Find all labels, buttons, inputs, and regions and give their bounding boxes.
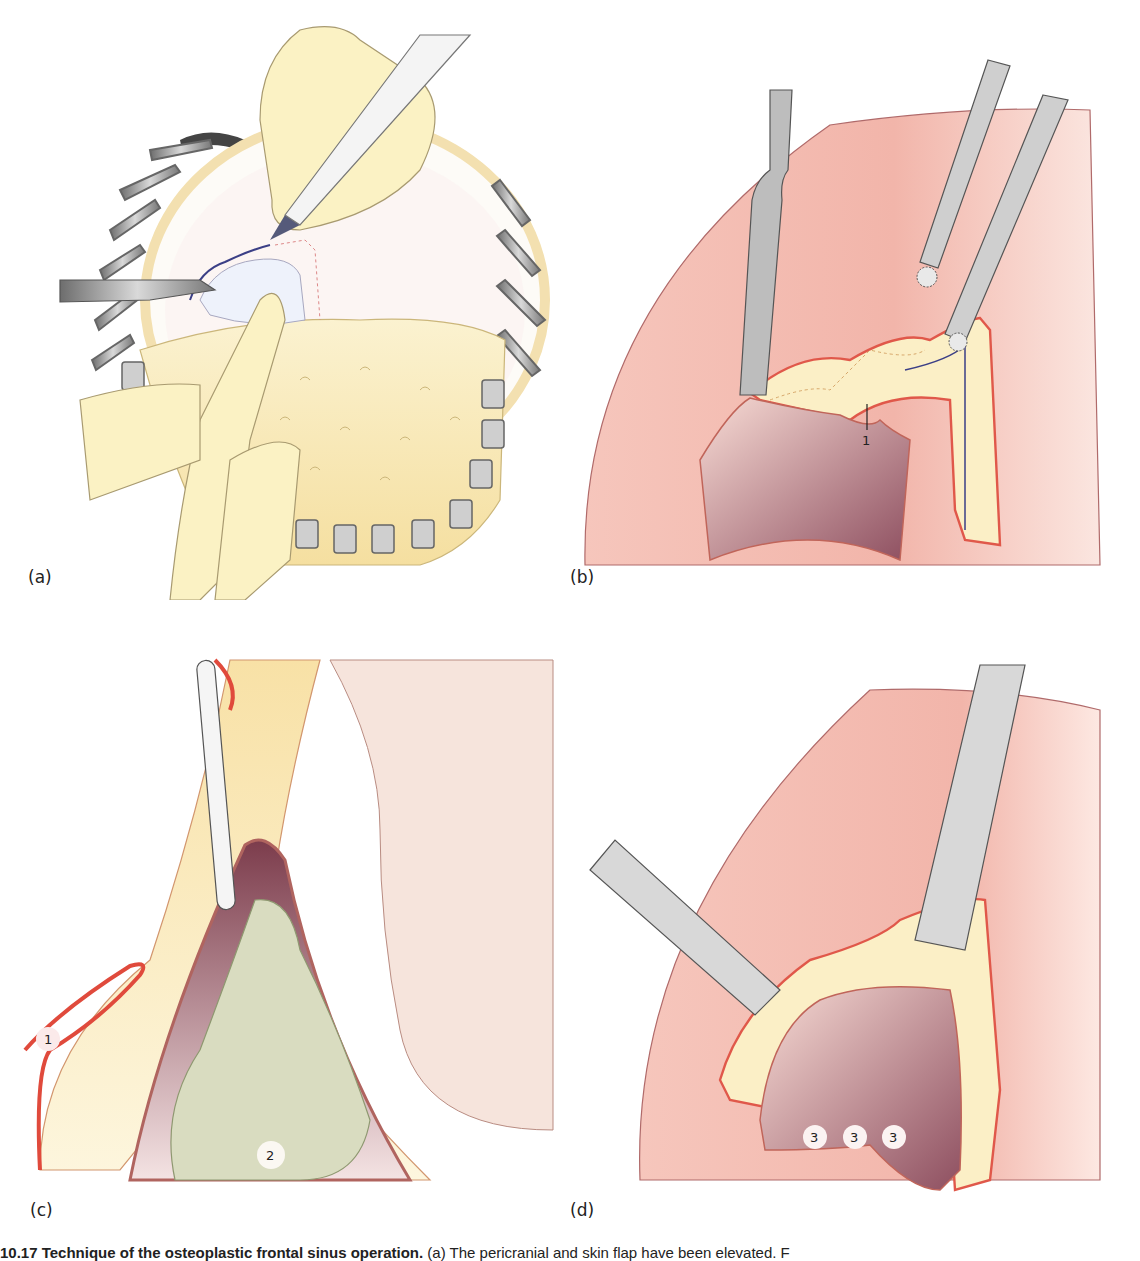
callout-1: 1 (862, 433, 870, 448)
caption-number: 10.17 (0, 1244, 38, 1261)
panel-c: 1 2 (c) (0, 630, 570, 1230)
panel-label-d: (d) (570, 1200, 594, 1220)
panel-label-c: (c) (30, 1200, 53, 1220)
sinus-cavity (700, 398, 910, 560)
callout-2: 2 (266, 1148, 274, 1163)
callout-3: 3 (810, 1130, 818, 1145)
panel-a-illustration (0, 0, 560, 600)
panel-label-b: (b) (570, 567, 594, 587)
callout-3: 3 (889, 1130, 897, 1145)
panel-label-a: (a) (28, 567, 52, 587)
brain-tissue (330, 660, 553, 1130)
callout-3: 3 (850, 1130, 858, 1145)
panel-c-illustration: 1 2 (0, 630, 570, 1230)
panel-b: 1 (b) (570, 0, 1140, 600)
bur-head-icon (917, 267, 937, 287)
bur-head-icon (949, 333, 967, 351)
panel-b-illustration: 1 (570, 0, 1140, 600)
callout-1: 1 (44, 1032, 52, 1047)
caption-text: (a) The pericranial and skin flap have b… (427, 1244, 789, 1261)
figure-caption: 10.17 Technique of the osteoplastic fron… (0, 1244, 1140, 1261)
panel-a: (a) (0, 0, 560, 600)
panel-d-illustration: 3 3 3 (570, 630, 1140, 1230)
panel-d: 3 3 3 (d) (570, 630, 1140, 1230)
caption-title: Technique of the osteoplastic frontal si… (42, 1244, 423, 1261)
